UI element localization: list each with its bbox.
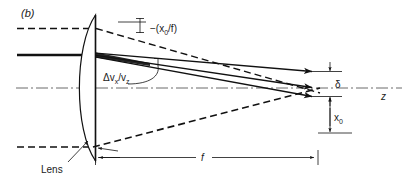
z-axis-label: z xyxy=(380,91,386,102)
lens-leader-arrow xyxy=(68,141,88,162)
panel-label: (b) xyxy=(21,7,35,19)
lens-label: Lens xyxy=(41,164,63,175)
lens-right-leader-arrow xyxy=(98,148,118,151)
slope-annotation-head: −(x xyxy=(150,23,164,34)
velocity-angle-slash: /v xyxy=(118,72,126,83)
lens-shape xyxy=(79,15,95,161)
lower-dashed-marginal-ray xyxy=(93,88,320,147)
focal-length-label: f xyxy=(201,152,205,163)
x0-label: x0 xyxy=(334,112,343,125)
slope-annotation-label: −(x0/f) xyxy=(150,23,177,36)
spot-size-label: δ xyxy=(335,79,341,90)
x0-label-sub: 0 xyxy=(339,118,343,125)
optics-figure-panel-b: (b) −(x0/f) Δvx/vz δ x0 z f Lens xyxy=(0,0,409,179)
angle-leader-arc xyxy=(128,66,158,84)
velocity-angle-head: Δv xyxy=(103,72,115,83)
slope-annotation-tail: /f) xyxy=(168,23,177,34)
velocity-angle-label: Δvx/vz xyxy=(103,72,130,85)
optics-ray-diagram: (b) −(x0/f) Δvx/vz δ x0 z f Lens xyxy=(0,0,409,179)
velocity-angle-sub2: z xyxy=(126,78,130,85)
